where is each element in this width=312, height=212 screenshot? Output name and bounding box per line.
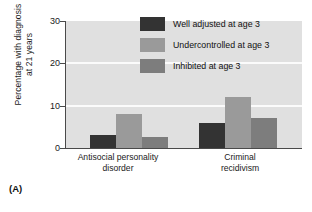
panel-letter: (A)	[9, 183, 22, 194]
legend-swatch-well-adjusted	[140, 17, 165, 31]
y-axis-title: Percentage with diagnosis at 21 years	[13, 0, 34, 130]
x-axis-label-antisocial-line-2: disorder	[58, 163, 178, 174]
y-tick-label-20: 20	[38, 58, 60, 68]
legend-item-undercontrolled: Undercontrolled at age 3	[140, 35, 269, 55]
y-tick-label-10: 10	[38, 101, 60, 111]
legend-label-undercontrolled: Undercontrolled at age 3	[173, 40, 269, 50]
gridline-10	[66, 105, 302, 107]
legend-swatch-inhibited	[140, 59, 165, 73]
bar-recidivism-undercontrolled	[225, 97, 251, 148]
y-axis-title-line-2: at 21 years	[23, 0, 34, 130]
legend-label-inhibited: Inhibited at age 3	[173, 61, 241, 71]
x-axis-label-recidivism: Criminal recidivism	[190, 152, 290, 174]
legend: Well adjusted at age 3 Undercontrolled a…	[140, 14, 269, 77]
legend-label-well-adjusted: Well adjusted at age 3	[173, 19, 260, 29]
y-tick-label-30: 30	[38, 16, 60, 26]
x-axis-label-antisocial-line-1: Antisocial personality	[58, 152, 178, 163]
bar-antisocial-undercontrolled	[116, 114, 142, 148]
bar-recidivism-inhibited	[251, 118, 277, 148]
y-axis-title-line-1: Percentage with diagnosis	[13, 0, 24, 130]
x-axis-label-recidivism-line-1: Criminal	[190, 152, 290, 163]
legend-swatch-undercontrolled	[140, 38, 165, 52]
bar-antisocial-well-adjusted	[90, 135, 116, 148]
x-axis-label-recidivism-line-2: recidivism	[190, 163, 290, 174]
x-axis-label-antisocial: Antisocial personality disorder	[58, 152, 178, 174]
y-tick-label-0: 0	[38, 143, 60, 153]
legend-item-inhibited: Inhibited at age 3	[140, 56, 269, 76]
bar-antisocial-inhibited	[142, 137, 168, 148]
legend-item-well-adjusted: Well adjusted at age 3	[140, 14, 269, 34]
bar-recidivism-well-adjusted	[199, 123, 225, 148]
figure-panel-a: Percentage with diagnosis at 21 years 30…	[0, 0, 312, 212]
